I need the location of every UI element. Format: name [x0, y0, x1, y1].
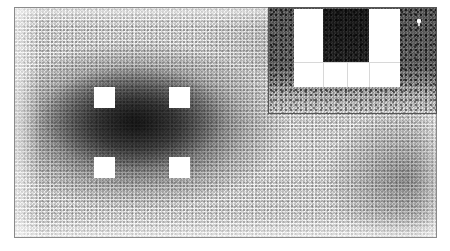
inset-hairline-v3: [369, 62, 370, 87]
mask-bottom-left: [94, 157, 115, 178]
mask-top-right: [169, 87, 190, 108]
mask-top-left: [94, 87, 115, 108]
inset-hairline-v1: [323, 62, 324, 87]
inset-hairline-h1: [294, 62, 400, 63]
magnified-inset: [268, 7, 437, 114]
cursor-speck-tail: [418, 23, 420, 26]
mask-bottom-right: [169, 157, 190, 178]
inset-center-grain: [323, 9, 369, 62]
inset-hairline-v2: [347, 62, 348, 87]
figure-root: [0, 0, 450, 251]
